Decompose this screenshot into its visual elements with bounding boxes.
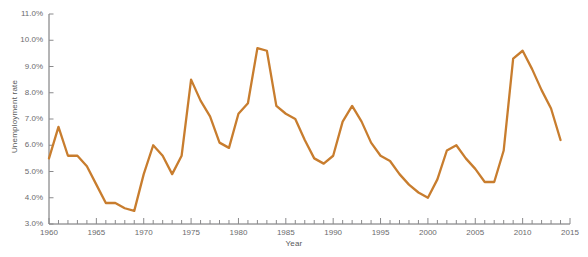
axes-group [49,14,570,224]
line-chart-plot [0,0,588,257]
axis-ticks-group [49,14,570,224]
chart-container: Unemployment rate Year 3.0%4.0%5.0%6.0%7… [0,0,588,257]
unemployment-rate-line [49,48,561,211]
